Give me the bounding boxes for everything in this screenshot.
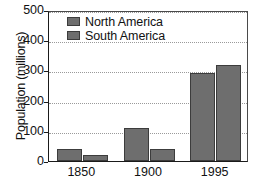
bar-1995-south-america bbox=[216, 65, 241, 161]
bar-chart: Population (millions) 0100200300400500 N… bbox=[0, 0, 254, 185]
bar-1900-north-america bbox=[124, 128, 149, 161]
bar-1850-north-america bbox=[57, 149, 82, 161]
legend-swatch-south-america bbox=[67, 31, 80, 40]
x-tick-label-1850: 1850 bbox=[51, 165, 111, 179]
bar-1995-north-america bbox=[190, 73, 215, 161]
x-tick-label-1995: 1995 bbox=[185, 165, 245, 179]
legend-label-south-america: South America bbox=[85, 29, 165, 43]
y-tick-label-300: 300 bbox=[2, 63, 44, 77]
y-tick-label-400: 400 bbox=[2, 33, 44, 47]
legend-item-north-america: North America bbox=[67, 15, 165, 28]
legend-swatch-north-america bbox=[67, 17, 80, 26]
y-tick-label-100: 100 bbox=[2, 124, 44, 138]
y-tick-label-200: 200 bbox=[2, 94, 44, 108]
bar-1900-south-america bbox=[150, 149, 175, 161]
x-tick-label-1900: 1900 bbox=[118, 165, 178, 179]
bar-1850-south-america bbox=[83, 155, 108, 161]
y-tick-mark-0 bbox=[44, 162, 48, 163]
legend-item-south-america: South America bbox=[67, 29, 165, 42]
legend: North America South America bbox=[67, 15, 165, 42]
gridline-500 bbox=[49, 12, 247, 13]
legend-label-north-america: North America bbox=[85, 15, 163, 29]
y-tick-label-0: 0 bbox=[2, 154, 44, 168]
y-tick-label-500: 500 bbox=[2, 3, 44, 17]
plot-area: North America South America bbox=[48, 11, 248, 162]
